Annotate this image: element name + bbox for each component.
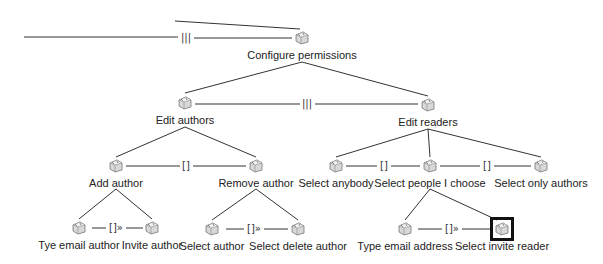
task-node-label[interactable]: Select only authors: [494, 177, 588, 189]
task-node-label[interactable]: Configure permissions: [247, 49, 356, 61]
task-node-icon[interactable]: [420, 98, 436, 112]
operator-symbol: []»: [444, 224, 460, 234]
task-node-label[interactable]: Select invite reader: [455, 240, 549, 252]
operator-symbol: []: [379, 161, 389, 171]
task-node-icon[interactable]: [328, 159, 344, 173]
operator-symbol: []: [181, 161, 191, 171]
task-node-label[interactable]: Add author: [89, 177, 143, 189]
task-node-icon[interactable]: [422, 159, 438, 173]
task-node-label[interactable]: Select anybody: [298, 177, 373, 189]
task-node-label[interactable]: Edit readers: [398, 116, 457, 128]
task-node-label[interactable]: Type email address: [357, 240, 452, 252]
operator-symbol: []»: [108, 223, 124, 233]
task-node-label[interactable]: Invite author: [122, 239, 183, 251]
task-node-label[interactable]: Tye email author: [38, 239, 119, 251]
task-node-icon[interactable]: [533, 159, 549, 173]
selection-box: [490, 217, 514, 241]
task-node-icon[interactable]: [397, 222, 413, 236]
task-node-icon[interactable]: [71, 221, 87, 235]
task-node-label[interactable]: Select people I choose: [374, 177, 485, 189]
operator-symbol: |||: [180, 33, 192, 43]
task-node-icon[interactable]: [290, 222, 306, 236]
task-node-icon[interactable]: [177, 96, 193, 110]
operator-symbol: []: [482, 161, 492, 171]
task-node-icon[interactable]: [204, 222, 220, 236]
task-node-icon[interactable]: [294, 31, 310, 45]
task-node-label[interactable]: Edit authors: [156, 114, 215, 126]
operator-symbol: |||: [301, 99, 313, 109]
operator-symbol: []»: [246, 224, 262, 234]
task-node-icon[interactable]: [144, 221, 160, 235]
task-node-icon[interactable]: [108, 159, 124, 173]
task-node-label[interactable]: Select author: [180, 240, 245, 252]
task-node-icon[interactable]: [248, 159, 264, 173]
task-node-label[interactable]: Remove author: [218, 177, 293, 189]
task-node-label[interactable]: Select delete author: [249, 240, 347, 252]
